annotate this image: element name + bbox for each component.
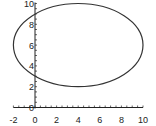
y-tick-label: 4 — [29, 61, 34, 71]
y-tick-label: 8 — [29, 20, 34, 30]
x-tick-labels: -20246810 — [9, 115, 148, 125]
ellipse-chart: -20246810 0246810 — [0, 0, 156, 126]
x-tick-label: 0 — [32, 115, 37, 125]
x-tick-label: 8 — [119, 115, 124, 125]
y-tick-label: 2 — [29, 82, 34, 92]
x-tick-label: 6 — [97, 115, 102, 125]
y-tick-label: 0 — [29, 103, 34, 113]
axes — [13, 3, 143, 109]
y-tick-label: 6 — [29, 41, 34, 51]
x-tick-label: -2 — [9, 115, 17, 125]
x-tick-label: 4 — [76, 115, 81, 125]
y-tick-labels: 0246810 — [24, 0, 34, 113]
x-tick-label: 10 — [138, 115, 148, 125]
x-tick-label: 2 — [54, 115, 59, 125]
y-tick-label: 10 — [24, 0, 34, 9]
